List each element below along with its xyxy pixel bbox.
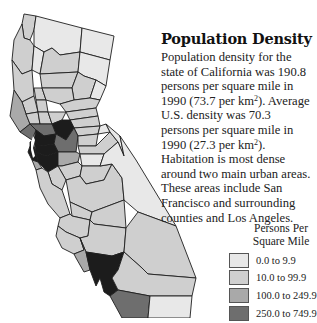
legend-swatch	[229, 306, 249, 321]
county-siskiyou	[34, 16, 82, 55]
legend: 0.0 to 9.9 10.0 to 99.9 100.0 to 249.9 2…	[229, 252, 317, 323]
legend-label: 250.0 to 749.9	[256, 308, 317, 319]
county-colusa	[36, 100, 48, 112]
legend-swatch	[229, 270, 249, 285]
legend-swatch	[229, 288, 249, 303]
legend-item: 10.0 to 99.9	[229, 270, 317, 287]
legend-item: 0.0 to 9.9	[229, 252, 317, 269]
description-text: Population density for the state of Cali…	[161, 50, 311, 225]
legend-swatch	[229, 253, 249, 268]
legend-label: 10.0 to 99.9	[256, 272, 306, 283]
legend-title-line-1: Persons Per	[250, 222, 312, 235]
legend-label: 100.0 to 249.9	[256, 290, 317, 301]
county-imperial	[148, 296, 192, 318]
legend-label: 0.0 to 9.9	[256, 255, 296, 266]
county-calaveras	[78, 134, 98, 146]
page-title: Population Density	[161, 30, 312, 47]
legend-item: 100.0 to 249.9	[229, 287, 317, 304]
legend-title: Persons Per Square Mile	[250, 222, 312, 247]
legend-item: 250.0 to 749.9	[229, 305, 317, 322]
legend-title-line-2: Square Mile	[250, 235, 312, 248]
county-tehama	[40, 72, 78, 88]
